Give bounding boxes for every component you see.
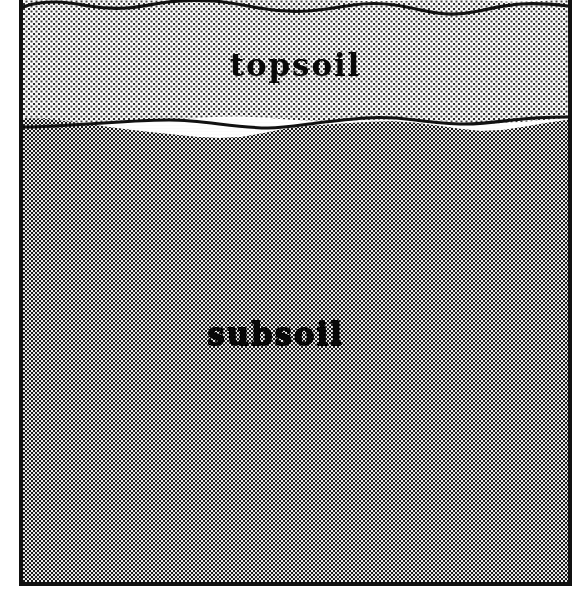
diagram-frame: topsoil subsoil: [19, 0, 572, 586]
soil-profile-figure: topsoil subsoil: [0, 0, 582, 593]
topsoil-label: topsoil: [23, 47, 568, 83]
subsoil-label: subsoil: [23, 316, 568, 352]
